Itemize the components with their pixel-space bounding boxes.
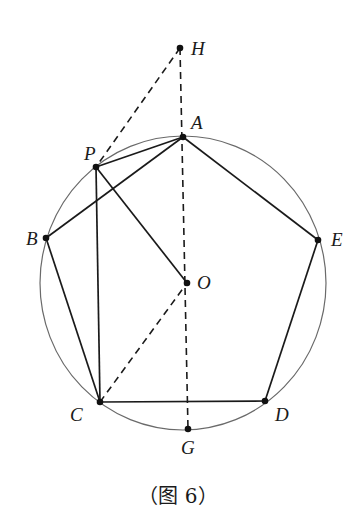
segment-cd — [100, 401, 265, 402]
label-p: P — [83, 143, 96, 164]
segment-de — [265, 240, 318, 401]
point-o-dot — [184, 280, 191, 287]
point-labels: H A P B E O C D G — [26, 38, 343, 458]
label-c: C — [70, 404, 83, 425]
segment-ab — [46, 137, 183, 238]
label-g: G — [181, 437, 195, 458]
segment-pa — [96, 137, 183, 167]
label-h: H — [190, 38, 206, 59]
point-b-dot — [43, 235, 50, 242]
geometry-figure: H A P B E O C D G （图 6） — [0, 0, 356, 532]
figure-caption: （图 6） — [138, 484, 217, 508]
segment-hg-dashed — [180, 48, 188, 429]
point-c-dot — [97, 399, 104, 406]
label-b: B — [26, 228, 38, 249]
label-o: O — [197, 272, 211, 293]
label-d: D — [274, 404, 289, 425]
pentagon-abcde — [46, 137, 318, 402]
segment-co-dashed — [100, 283, 187, 402]
point-a-dot — [180, 134, 187, 141]
points — [43, 45, 322, 433]
point-e-dot — [315, 237, 322, 244]
point-p-dot — [93, 164, 100, 171]
segment-ea — [183, 137, 318, 240]
point-h-dot — [177, 45, 184, 52]
point-g-dot — [185, 426, 192, 433]
segment-pc — [96, 167, 100, 402]
label-e: E — [330, 229, 343, 250]
label-a: A — [189, 112, 203, 133]
segment-po — [96, 167, 187, 283]
point-d-dot — [262, 398, 269, 405]
